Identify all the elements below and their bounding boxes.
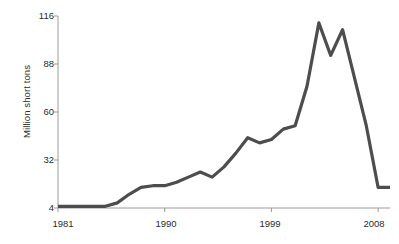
chart-axes [58, 16, 390, 208]
y-axis-title: Million short tons [21, 42, 32, 162]
chart-plot-area [0, 0, 399, 244]
data-series-line [58, 23, 390, 206]
y-tick-label: 116 [20, 11, 54, 21]
x-tick-label: 1999 [246, 218, 294, 229]
x-tick-label: 2008 [350, 218, 398, 229]
x-tick-label: 1990 [142, 218, 190, 229]
x-tick-label: 1981 [39, 218, 87, 229]
chart-ticks [54, 16, 378, 212]
y-tick-label: 4 [20, 203, 54, 213]
line-chart: 116 88 60 32 4 1981 1990 1999 2008 Milli… [0, 0, 399, 244]
